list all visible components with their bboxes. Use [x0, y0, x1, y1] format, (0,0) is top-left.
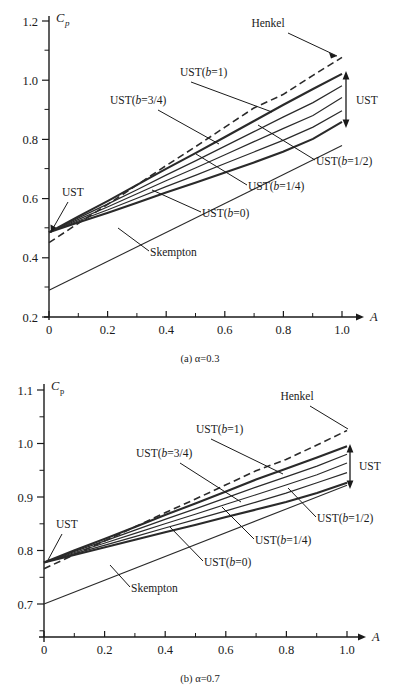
ust-range-bracket-a: UST [343, 71, 378, 128]
x-tick-label: 0 [41, 643, 47, 657]
y-axis-title-b: C p [51, 379, 64, 396]
caption-b: (b) α=0.7 [180, 673, 219, 685]
x-tick-label: 1.0 [339, 643, 355, 657]
leader-ust-b12 [288, 488, 316, 517]
label-ust-b14: UST(b=1/4) [248, 180, 304, 193]
x-axis-title-a: A [369, 310, 378, 324]
curve-ust-b14 [44, 473, 347, 563]
leader-skempton [118, 228, 149, 251]
caption-a: (a) α=0.3 [181, 353, 220, 365]
label-ust-b12: UST(b=1/2) [316, 155, 372, 168]
x-tick-label: 0.6 [218, 643, 234, 657]
y-axis-title-sub: p [60, 386, 64, 396]
x-tick-label: 1.0 [334, 323, 350, 337]
curve-ust-b12 [49, 98, 342, 233]
leader-skempton [110, 565, 130, 587]
y-tick-label: 1.2 [22, 15, 38, 29]
ust-range-bracket-b: UST [347, 444, 381, 489]
y-tick-label: 0.8 [17, 544, 33, 558]
curve-ust-b1 [49, 74, 342, 232]
leader-ust-b1 [191, 82, 272, 112]
label-ust-b0: UST(b=0) [204, 556, 252, 569]
figure-page: 1.2 1.0 0.8 0.6 0.4 0.2 C p 0 [0, 0, 413, 695]
data-curves-b [44, 431, 347, 605]
x-tick-label: 0 [46, 323, 52, 337]
y-ticks-a: 1.2 1.0 0.8 0.6 0.4 0.2 [22, 15, 49, 325]
chart-a-svg: 1.2 1.0 0.8 0.6 0.4 0.2 C p 0 [0, 0, 413, 372]
y-tick-label: 0.6 [22, 192, 38, 206]
y-axis-title-main: C [51, 379, 60, 393]
label-ust-b1: UST(b=1) [180, 66, 228, 79]
x-tick-label: 0.2 [100, 323, 116, 337]
y-tick-label: 0.9 [17, 491, 33, 505]
y-axis-title-a: C p [56, 11, 70, 28]
label-henkel: Henkel [280, 390, 313, 402]
leader-ust-b0 [152, 190, 201, 212]
leader-ust-b34 [158, 110, 219, 144]
y-tick-label: 1.0 [22, 74, 38, 88]
label-ust-b34: UST(b=3/4) [136, 447, 192, 460]
x-tick-label: 0.4 [158, 323, 174, 337]
label-ust-bracket: UST [356, 94, 378, 106]
leader-arrow-henkel [329, 53, 337, 59]
x-tick-label: 0.2 [97, 643, 113, 657]
y-tick-label: 0.7 [17, 598, 33, 612]
x-tick-label: 0.4 [157, 643, 173, 657]
x-ticks-a: 0 0.2 0.4 0.6 0.8 1.0 [46, 311, 350, 337]
label-ust-left: UST [56, 518, 78, 530]
y-tick-label: 0.4 [22, 251, 38, 265]
y-axis-title-sub: p [64, 18, 70, 28]
chart-b-svg: 1.1 1.0 0.9 0.8 0.7 C p 0 0.2 [0, 372, 413, 695]
x-tick-label: 0.8 [276, 323, 292, 337]
leader-ust-b34 [180, 463, 241, 502]
annotations-b: Henkel UST(b=1) UST(b=3/4) UST(b=1/2) US… [48, 390, 381, 595]
annotations-a: Henkel UST(b=1) UST(b=3/4) UST(b=1/2) US… [51, 17, 378, 259]
leader-henkel [310, 406, 348, 429]
curve-ust-b14 [49, 111, 342, 233]
curve-ust-b34 [49, 86, 342, 233]
x-tick-label: 0.8 [279, 643, 295, 657]
x-tick-label: 0.6 [217, 323, 233, 337]
label-ust-b12: UST(b=1/2) [317, 512, 373, 525]
label-ust-b14: UST(b=1/4) [255, 534, 311, 547]
y-axis-title-main: C [56, 11, 65, 25]
x-ticks-b: 0 0.2 0.4 0.6 0.8 1.0 [41, 631, 355, 657]
label-ust-bracket: UST [359, 460, 381, 472]
x-axis-title-b: A [371, 630, 380, 644]
leader-henkel [288, 33, 337, 56]
y-tick-label: 0.8 [22, 133, 38, 147]
label-ust-b1: UST(b=1) [196, 423, 244, 436]
chart-panel-b: 1.1 1.0 0.9 0.8 0.7 C p 0 0.2 [0, 372, 413, 695]
label-skempton: Skempton [131, 582, 178, 595]
y-tick-label: 1.1 [17, 384, 33, 398]
x-axis-arrow-b [358, 634, 366, 641]
label-ust-b0: UST(b=0) [202, 207, 250, 220]
label-ust-left: UST [62, 186, 84, 198]
curve-henkel [44, 431, 347, 569]
y-tick-label: 1.0 [17, 437, 33, 451]
y-tick-label: 0.2 [22, 311, 38, 325]
leader-ust-b1 [211, 439, 283, 474]
curve-ust-b0 [44, 483, 347, 563]
x-axis-arrow-a [356, 314, 364, 321]
label-skempton: Skempton [150, 246, 197, 259]
chart-panel-a: 1.2 1.0 0.8 0.6 0.4 0.2 C p 0 [0, 0, 413, 372]
curve-ust-b34 [44, 454, 347, 562]
label-henkel: Henkel [251, 17, 284, 29]
y-ticks-b: 1.1 1.0 0.9 0.8 0.7 [17, 384, 44, 631]
label-ust-b34: UST(b=3/4) [110, 94, 166, 107]
